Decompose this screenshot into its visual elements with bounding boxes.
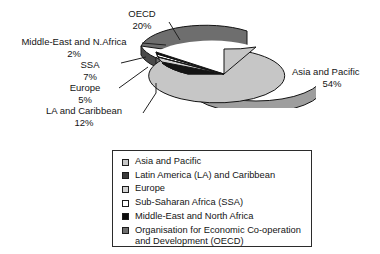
- legend-label-oecd-line1: Organisation for Economic Co-operation: [135, 225, 301, 235]
- legend-item-latin-america-caribbean: Latin America (LA) and Caribbean: [113, 170, 311, 181]
- callout-oecd-pct: 20%: [116, 20, 168, 32]
- legend-item-europe: Europe: [113, 183, 311, 194]
- legend-label-oecd-line2: and Development (OECD): [135, 236, 301, 247]
- legend-label-sub-saharan-africa: Sub-Saharan Africa (SSA): [135, 197, 243, 208]
- callout-lac-name: LA and Caribbean: [46, 105, 122, 116]
- legend-item-middle-east-north-africa: Middle-East and North Africa: [113, 211, 311, 222]
- legend-item-asia-pacific: Asia and Pacific: [113, 156, 311, 167]
- callout-oecd-name: OECD: [128, 8, 155, 19]
- callout-mena-name: Middle-East and N.Africa: [21, 36, 126, 47]
- legend-swatch-icon-europe: [122, 186, 129, 193]
- pie-chart-figure: OECD 20% Middle-East and N.Africa 2% SSA…: [0, 0, 380, 254]
- legend-item-sub-saharan-africa: Sub-Saharan Africa (SSA): [113, 197, 311, 208]
- legend-label-latin-america-caribbean: Latin America (LA) and Caribbean: [135, 170, 275, 181]
- legend-label-asia-pacific: Asia and Pacific: [135, 156, 201, 167]
- legend-swatch-icon-sub-saharan-africa: [122, 200, 129, 207]
- chart-legend: Asia and Pacific Latin America (LA) and …: [112, 150, 312, 247]
- callout-ssa-pct: 7%: [60, 71, 120, 83]
- callout-ssa-name: SSA: [80, 59, 99, 70]
- legend-swatch-icon-latin-america-caribbean: [122, 172, 129, 179]
- legend-label-oecd: Organisation for Economic Co-operation a…: [135, 225, 301, 247]
- callout-asia-pct: 54%: [292, 78, 372, 90]
- callout-asia-pacific: Asia and Pacific 54%: [292, 66, 378, 89]
- legend-label-europe: Europe: [135, 183, 165, 194]
- callout-middle-east-north-africa: Middle-East and N.Africa 2%: [8, 36, 140, 59]
- legend-swatch-icon-middle-east-north-africa: [122, 213, 129, 220]
- callout-europe-name: Europe: [70, 82, 101, 93]
- callout-ssa: SSA 7%: [60, 59, 120, 82]
- callout-europe-pct: 5%: [50, 94, 120, 106]
- callout-lac-pct: 12%: [28, 117, 140, 129]
- legend-label-middle-east-north-africa: Middle-East and North Africa: [135, 211, 253, 222]
- callout-la-caribbean: LA and Caribbean 12%: [28, 105, 140, 128]
- callout-asia-name: Asia and Pacific: [292, 66, 360, 77]
- callout-mena-pct: 2%: [8, 48, 140, 60]
- callout-europe: Europe 5%: [50, 82, 120, 105]
- callout-oecd: OECD 20%: [116, 8, 168, 31]
- legend-swatch-icon-asia-pacific: [122, 159, 129, 166]
- legend-swatch-icon-oecd: [122, 227, 129, 234]
- legend-item-oecd: Organisation for Economic Co-operation a…: [113, 225, 311, 247]
